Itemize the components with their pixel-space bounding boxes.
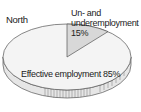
- slice-label-line1: Un- and: [71, 8, 139, 18]
- slice-label-line2: underemployment: [71, 18, 139, 28]
- slice-label-underemployment: Un- and underemployment 15%: [71, 8, 139, 38]
- chart-title: North: [6, 15, 28, 25]
- slice-label-line3: 15%: [71, 28, 139, 38]
- slice-label-effective-employment: Effective employment 85%: [21, 69, 120, 79]
